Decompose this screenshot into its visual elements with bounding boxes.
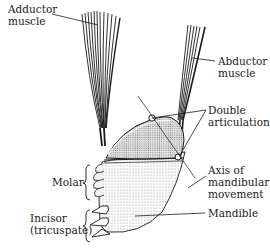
label-line: articulation (208, 116, 270, 128)
label-line: Incisor (30, 212, 92, 224)
incisor-teeth (90, 206, 110, 237)
adductor-muscle (82, 11, 120, 146)
mandible-label: Mandible (208, 207, 258, 219)
label-line: Adductor (8, 3, 57, 15)
label-line: Double (208, 104, 270, 116)
label-line: Mandible (208, 207, 258, 219)
label-line: movement (208, 188, 269, 200)
incisor-label: Incisor (tricuspate) (30, 212, 92, 236)
double-articulation-label: Double articulation (208, 104, 270, 128)
axis-of-movement-label: Axis of mandibular movement (208, 164, 269, 200)
label-line: muscle (8, 15, 57, 27)
label-line: muscle (218, 67, 267, 79)
label-line: Molar (52, 176, 84, 188)
molar-label: Molar (52, 176, 84, 188)
label-line: mandibular (208, 176, 269, 188)
mandible-body (99, 117, 185, 232)
label-line: Axis of (208, 164, 269, 176)
abductor-muscle-label: Abductor muscle (218, 55, 267, 79)
label-line: (tricuspate) (30, 224, 92, 236)
mandible-diagram: Adductor muscle Abductor muscle Double a… (0, 0, 270, 248)
adductor-muscle-label: Adductor muscle (8, 3, 57, 27)
label-line: Abductor (218, 55, 267, 67)
